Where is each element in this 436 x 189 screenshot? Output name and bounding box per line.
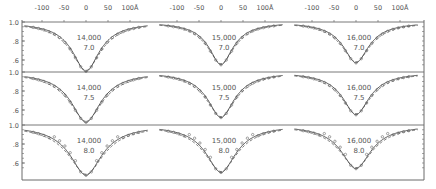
observed-point	[371, 146, 373, 148]
observed-point	[69, 152, 71, 154]
observed-point	[376, 140, 378, 142]
x-tick-label: -50	[194, 4, 205, 12]
panel-logg-label: 7.5	[218, 94, 229, 102]
observed-point	[328, 136, 330, 138]
observed-point	[252, 133, 254, 135]
observed-point	[339, 146, 341, 148]
panel-teff-label: 16,000	[347, 137, 372, 145]
panel-logg-label: 8.0	[218, 147, 229, 155]
x-tick-label: 100Å	[257, 3, 274, 12]
observed-point	[193, 137, 195, 139]
observed-point	[209, 156, 211, 158]
x-tick-label: -100	[170, 4, 185, 12]
y-tick-label: 1.0	[9, 69, 19, 77]
panel-14000-8.0: 14,0008.0	[24, 130, 147, 176]
observed-point	[53, 136, 55, 138]
x-tick-label: 0	[354, 4, 358, 12]
panel-14000-7.5: 14,0007.5	[24, 77, 147, 124]
panel-logg-label: 7.0	[218, 44, 229, 52]
panel-15000-7.5: 15,0007.5	[159, 76, 282, 119]
observed-point	[58, 140, 60, 142]
y-tick-label: .8	[13, 88, 19, 96]
x-tick-label: -50	[59, 4, 70, 12]
observed-point	[344, 153, 346, 155]
observed-point	[381, 136, 383, 138]
x-tick-label: -50	[329, 4, 340, 12]
panel-teff-label: 15,000	[212, 84, 237, 92]
observed-point	[204, 148, 206, 150]
x-tick-label: 100Å	[122, 3, 139, 12]
y-tick-label: .8	[13, 141, 19, 149]
panel-teff-label: 14,000	[77, 137, 102, 145]
x-tick-label: 50	[239, 4, 247, 12]
observed-point	[323, 132, 325, 134]
panel-teff-label: 15,000	[212, 34, 237, 42]
y-tick-label: 1.0	[9, 122, 19, 130]
panel-teff-label: 16,000	[347, 34, 372, 42]
observed-point	[241, 142, 243, 144]
x-tick-label: 0	[219, 4, 223, 12]
line-profile-figure: 1.0.8.61.0.8.61.0.8.6-100-50050100Å-100-…	[0, 0, 436, 189]
x-tick-label: 0	[84, 4, 88, 12]
observed-point	[365, 153, 367, 155]
x-tick-label: 100Å	[392, 3, 409, 12]
observed-point	[95, 160, 97, 162]
panel-16000-7.0: 16,0007.0	[294, 25, 417, 64]
panel-teff-label: 15,000	[212, 137, 237, 145]
observed-point	[230, 156, 232, 158]
panel-teff-label: 14,000	[77, 34, 102, 42]
panel-logg-label: 7.5	[353, 94, 364, 102]
panel-teff-label: 14,000	[77, 84, 102, 92]
panel-teff-label: 16,000	[347, 84, 372, 92]
observed-point	[74, 160, 76, 162]
y-tick-label: 1.0	[9, 19, 19, 27]
panel-logg-label: 8.0	[83, 147, 94, 155]
chart-canvas: 1.0.8.61.0.8.61.0.8.6-100-50050100Å-100-…	[0, 0, 436, 189]
panel-logg-label: 7.5	[83, 94, 94, 102]
y-tick-label: .6	[13, 160, 19, 168]
observed-point	[117, 136, 119, 138]
observed-point	[387, 132, 389, 134]
y-tick-label: .6	[13, 57, 19, 65]
observed-point	[199, 142, 201, 144]
panel-logg-label: 8.0	[353, 147, 364, 155]
observed-point	[236, 148, 238, 150]
x-tick-label: -100	[305, 4, 320, 12]
observed-point	[111, 140, 113, 142]
observed-point	[101, 152, 103, 154]
panel-16000-8.0: 16,0008.0	[294, 129, 417, 170]
x-tick-label: -100	[35, 4, 50, 12]
y-tick-label: .6	[13, 107, 19, 115]
x-tick-label: 50	[374, 4, 382, 12]
panel-15000-8.0: 15,0008.0	[159, 129, 282, 173]
observed-point	[188, 133, 190, 135]
observed-point	[334, 140, 336, 142]
y-tick-label: .8	[13, 38, 19, 46]
panel-15000-7.0: 15,0007.0	[159, 25, 282, 66]
observed-point	[106, 145, 108, 147]
panel-logg-label: 7.0	[83, 44, 94, 52]
observed-point	[246, 137, 248, 139]
panel-14000-7.0: 14,0007.0	[24, 26, 147, 73]
observed-point	[64, 145, 66, 147]
panel-logg-label: 7.0	[353, 44, 364, 52]
panel-16000-7.5: 16,0007.5	[294, 75, 417, 116]
x-tick-label: 50	[104, 4, 112, 12]
